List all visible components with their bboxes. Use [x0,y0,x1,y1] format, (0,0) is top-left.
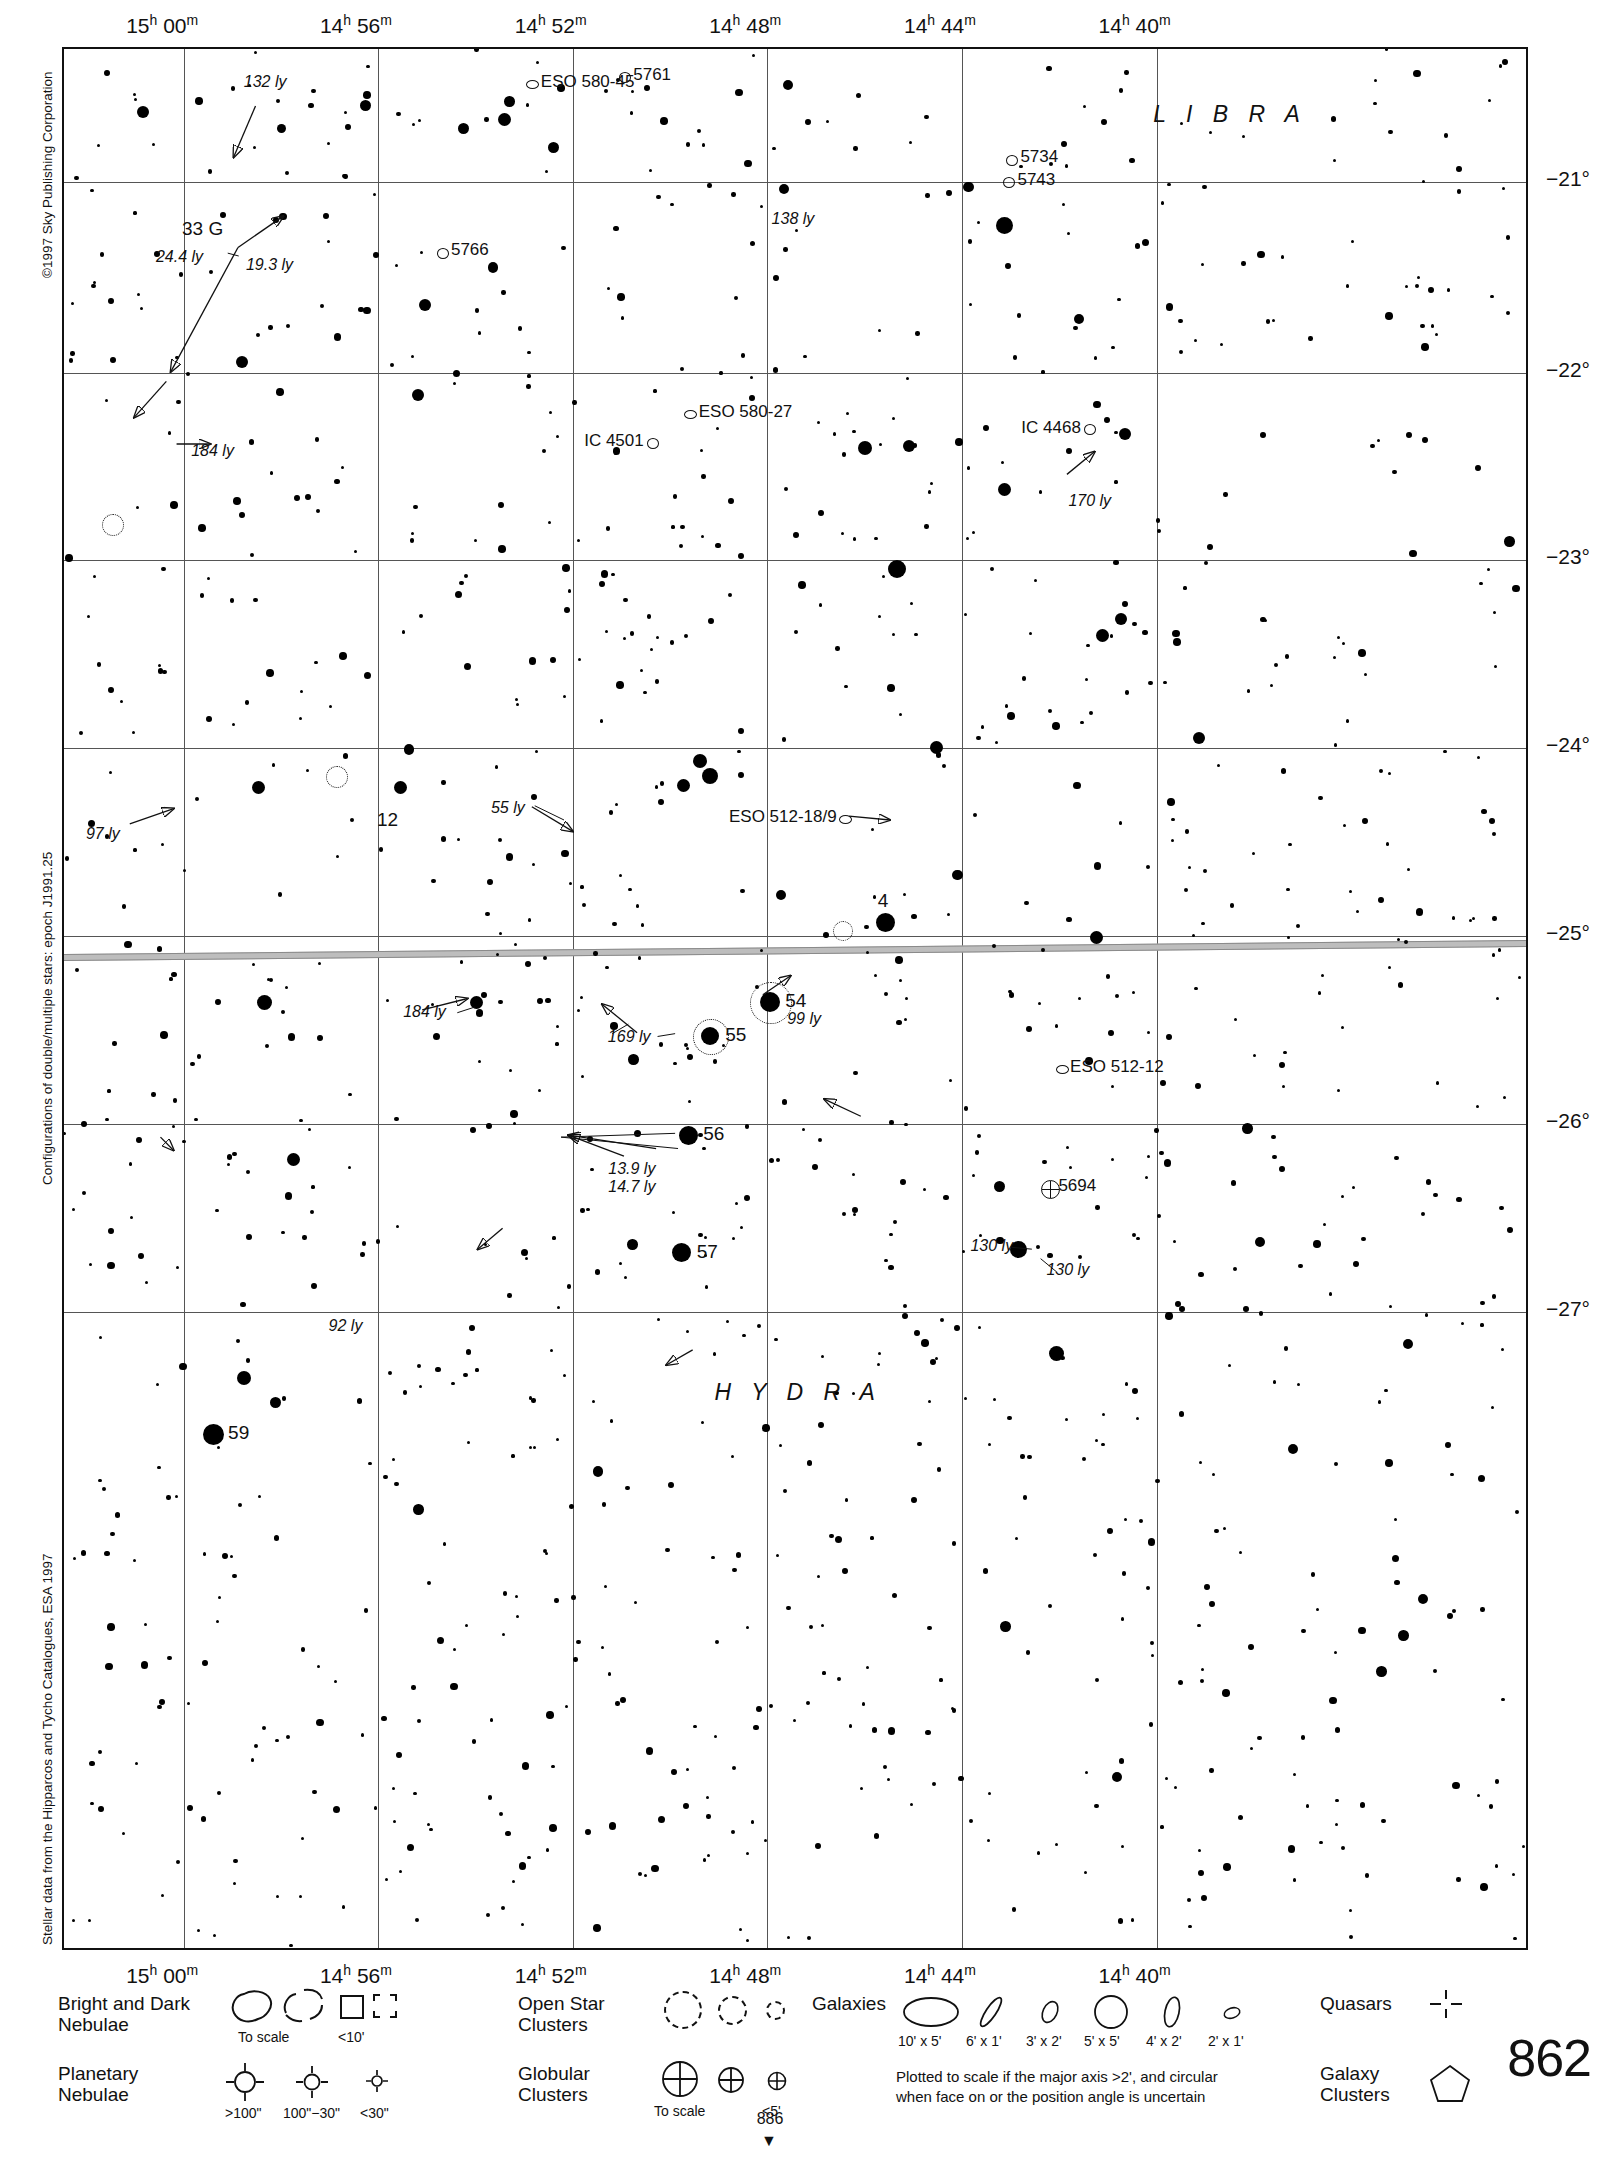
field-star [757,1324,761,1328]
field-star [837,1677,841,1681]
field-star [842,1568,848,1574]
bright-nebula-icon [228,1987,276,2027]
galaxy-symbol [1084,424,1096,435]
field-star [176,1860,180,1864]
field-star [545,998,551,1004]
field-star [363,307,371,315]
field-star [1013,355,1017,359]
field-star [906,377,909,380]
bright-star [360,100,371,111]
field-star [1131,1918,1134,1921]
field-star [656,195,660,199]
bright-star [287,1153,300,1166]
field-star [1450,1473,1453,1476]
distance-label: 184 ly [403,1004,446,1020]
field-star [893,1220,897,1224]
dec-grid-line [64,182,1526,183]
field-star [1166,303,1174,311]
field-star [1179,1306,1185,1312]
bright-star [679,1126,698,1145]
field-star [701,1421,704,1424]
field-star [1293,1773,1296,1776]
field-star [1167,183,1170,186]
field-star [606,526,610,530]
field-star [1421,1212,1425,1216]
field-star [687,1054,693,1060]
field-star [1426,1179,1432,1185]
field-star [967,466,970,469]
field-star [1005,704,1008,707]
field-star [1111,1158,1114,1161]
field-star [411,532,414,535]
field-star [1260,432,1266,438]
legend-galaxy-3x2-sub: 3' x 2' [1026,2033,1062,2049]
bright-star [252,781,265,794]
field-star [502,1633,505,1636]
field-star [679,544,683,548]
field-star [925,193,929,197]
field-star [374,1806,377,1809]
field-star [1041,370,1044,373]
field-star [619,1262,622,1265]
field-star [852,1173,855,1176]
field-star [1477,1794,1480,1797]
field-star [762,1424,770,1432]
field-star [1385,48,1388,51]
ra-grid-line [962,49,963,1948]
field-star [1104,417,1110,423]
field-star [561,850,569,858]
field-star [1293,1878,1296,1881]
field-star [1364,673,1367,676]
field-star [1487,568,1490,571]
field-star [1456,1877,1460,1881]
field-star [1036,1245,1040,1249]
field-star [152,143,155,146]
field-star [1279,1166,1285,1172]
field-star [167,1656,171,1660]
field-star [1506,235,1510,239]
field-star [698,1133,702,1137]
field-star [569,882,572,885]
field-star [1504,536,1515,547]
field-star [133,848,136,851]
field-star [658,1816,666,1824]
deep-sky-label: 5766 [451,241,489,258]
field-star [252,963,255,966]
field-star [411,1685,415,1689]
field-star [1272,1155,1276,1159]
field-star [713,1059,717,1063]
field-star [609,1822,617,1830]
field-star [1159,1151,1163,1155]
field-star [1318,796,1322,800]
field-star [592,1400,595,1403]
field-star [179,272,183,276]
planetary-nebula-medium-icon [293,2063,331,2101]
field-star [140,307,143,310]
field-star [253,146,256,149]
field-star [1428,287,1434,293]
field-star [366,65,369,68]
field-star [1061,141,1067,147]
field-star [593,1466,604,1477]
field-star [222,1553,228,1559]
field-star [1199,1461,1202,1464]
field-star [987,1839,990,1842]
field-star [403,1390,407,1394]
star-designation-label: 59 [228,1423,249,1442]
field-star [963,182,974,193]
field-star [69,358,73,362]
field-star [230,1555,233,1558]
field-star [680,367,684,371]
field-star [715,543,721,549]
field-star [732,1766,736,1770]
field-star [1146,865,1150,869]
legend-galaxy-clusters-label: Galaxy Clusters [1320,2063,1390,2105]
field-star [673,1062,676,1065]
field-star [564,607,570,613]
field-star [173,1098,177,1102]
bright-star [930,741,943,754]
field-star [531,794,537,800]
field-star [170,501,178,509]
open-cluster-symbol [833,921,853,941]
field-star [161,567,165,571]
